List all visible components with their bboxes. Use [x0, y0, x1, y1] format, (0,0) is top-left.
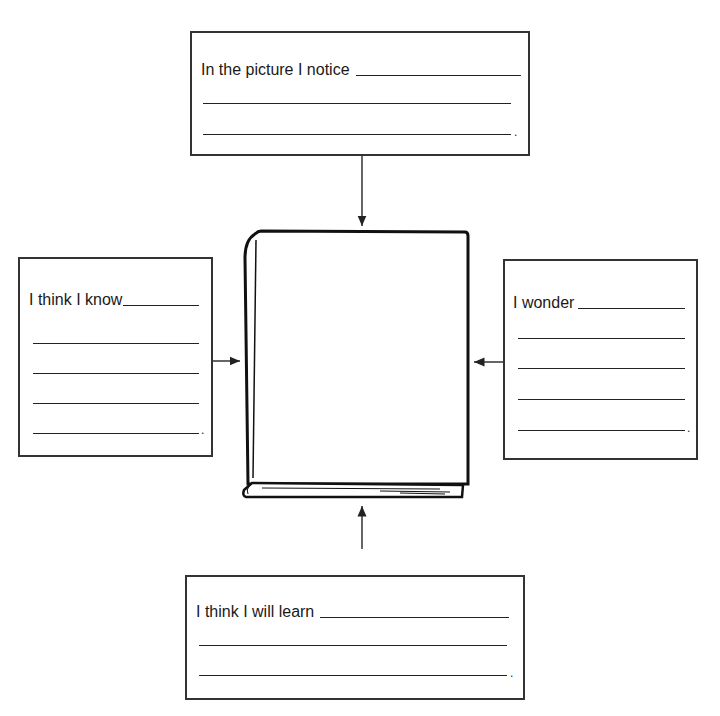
learn-prompt: I think I will learn [196, 603, 314, 621]
learn-period: . [510, 666, 513, 680]
wonder-answer-line-1[interactable] [578, 308, 685, 309]
know-period: . [201, 423, 204, 437]
wonder-box: I wonder . [503, 259, 698, 460]
wonder-period: . [687, 421, 690, 435]
notice-prompt: In the picture I notice [201, 61, 350, 79]
know-answer-line-3[interactable] [33, 373, 199, 374]
know-answer-line-1[interactable] [123, 305, 199, 306]
notice-answer-line-3[interactable] [203, 134, 511, 135]
notice-prompt-row: In the picture I notice [201, 61, 521, 79]
notice-answer-line-2[interactable] [203, 103, 511, 104]
learn-prompt-row: I think I will learn [196, 603, 509, 621]
notice-box: In the picture I notice . [190, 31, 530, 156]
wonder-prompt-row: I wonder [513, 294, 685, 312]
know-answer-line-4[interactable] [33, 403, 199, 404]
learn-answer-line-3[interactable] [199, 675, 507, 676]
book-icon [243, 231, 468, 497]
wonder-prompt: I wonder [513, 294, 574, 312]
know-box: I think I know . [18, 257, 213, 457]
wonder-answer-line-2[interactable] [518, 338, 685, 339]
wonder-answer-line-3[interactable] [518, 368, 685, 369]
learn-answer-line-2[interactable] [199, 645, 507, 646]
notice-period: . [514, 125, 517, 139]
notice-answer-line-1[interactable] [356, 75, 521, 76]
wonder-answer-line-4[interactable] [518, 399, 685, 400]
learn-answer-line-1[interactable] [320, 617, 509, 618]
wonder-answer-line-5[interactable] [518, 430, 685, 431]
learn-box: I think I will learn . [185, 575, 525, 700]
know-prompt: I think I know [29, 291, 122, 309]
know-answer-line-5[interactable] [33, 433, 199, 434]
know-answer-line-2[interactable] [33, 343, 199, 344]
know-prompt-row: I think I know [29, 291, 199, 309]
